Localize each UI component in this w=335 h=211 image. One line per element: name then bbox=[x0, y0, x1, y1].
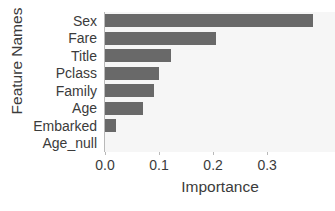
bar-chart-figure: Feature Names Sex Fare Title Pclass Fami… bbox=[0, 0, 335, 211]
y-tick-label: Age bbox=[0, 100, 101, 118]
bar-sex bbox=[105, 14, 313, 27]
bar-row bbox=[105, 100, 335, 118]
bar-row bbox=[105, 135, 335, 153]
bar-row bbox=[105, 30, 335, 48]
bar-row bbox=[105, 12, 335, 30]
x-tick-label: 0.0 bbox=[85, 157, 125, 173]
x-axis-title: Importance bbox=[105, 178, 335, 196]
bar-row bbox=[105, 47, 335, 65]
bar-fare bbox=[105, 32, 216, 45]
bar-age bbox=[105, 102, 143, 115]
bar-row bbox=[105, 82, 335, 100]
x-tick-mark bbox=[213, 152, 214, 155]
y-tick-label: Title bbox=[0, 47, 101, 65]
y-axis-tick-labels: Sex Fare Title Pclass Family Age Embarke… bbox=[0, 12, 101, 152]
x-tick-mark bbox=[159, 152, 160, 155]
x-tick-mark bbox=[267, 152, 268, 155]
y-tick-label: Pclass bbox=[0, 65, 101, 83]
x-tick-label: 0.2 bbox=[193, 157, 233, 173]
x-tick-mark bbox=[105, 152, 106, 155]
x-tick-label: 0.1 bbox=[139, 157, 179, 173]
bar-pclass bbox=[105, 67, 159, 80]
bar-row bbox=[105, 117, 335, 135]
y-tick-label: Embarked bbox=[0, 117, 101, 135]
bar-embarked bbox=[105, 119, 116, 132]
bar-row bbox=[105, 65, 335, 83]
y-tick-label: Fare bbox=[0, 30, 101, 48]
y-tick-label: Age_null bbox=[0, 135, 101, 153]
plot-area bbox=[105, 12, 335, 152]
y-axis-spine bbox=[104, 12, 105, 152]
y-tick-label: Sex bbox=[0, 12, 101, 30]
x-tick-label: 0.3 bbox=[247, 157, 287, 173]
bar-title bbox=[105, 49, 171, 62]
bar-series bbox=[105, 12, 335, 152]
y-tick-label: Family bbox=[0, 82, 101, 100]
bar-family bbox=[105, 84, 154, 97]
